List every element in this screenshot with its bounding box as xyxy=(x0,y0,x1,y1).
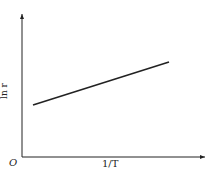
data-line xyxy=(33,62,169,105)
plot-area xyxy=(0,0,208,175)
origin-label: O xyxy=(9,157,17,168)
x-axis-label: 1/T xyxy=(102,158,118,169)
y-axis-label: ln r xyxy=(0,83,9,99)
chart: ln r 1/T O xyxy=(0,0,208,175)
